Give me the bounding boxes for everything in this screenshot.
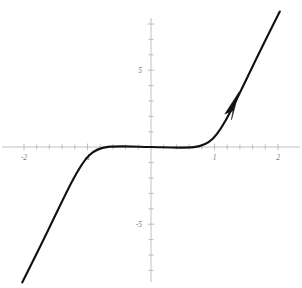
- x-tick-label-2: 2: [276, 153, 280, 162]
- cubic-function-plot: -2 -1 1 2 5 -5: [0, 0, 302, 288]
- y-tick-label-neg5: -5: [136, 220, 142, 229]
- plot-canvas: -2 -1 1 2 5 -5: [0, 0, 302, 288]
- x-tick-label-1: 1: [213, 153, 217, 162]
- x-tick-label-neg2: -2: [21, 153, 27, 162]
- y-tick-label-5: 5: [138, 66, 142, 75]
